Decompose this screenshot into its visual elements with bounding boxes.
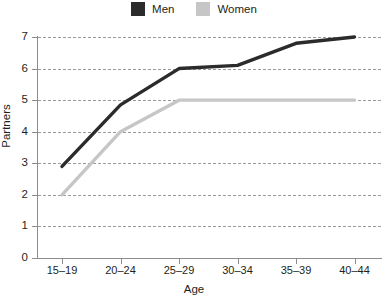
series-layer xyxy=(0,0,388,303)
line-chart: Men Women 01234567 15–1920–2425–2930–343… xyxy=(0,0,388,303)
women-line xyxy=(62,100,355,195)
x-axis-title: Age xyxy=(0,283,388,295)
y-axis-title: Partners xyxy=(0,66,12,186)
